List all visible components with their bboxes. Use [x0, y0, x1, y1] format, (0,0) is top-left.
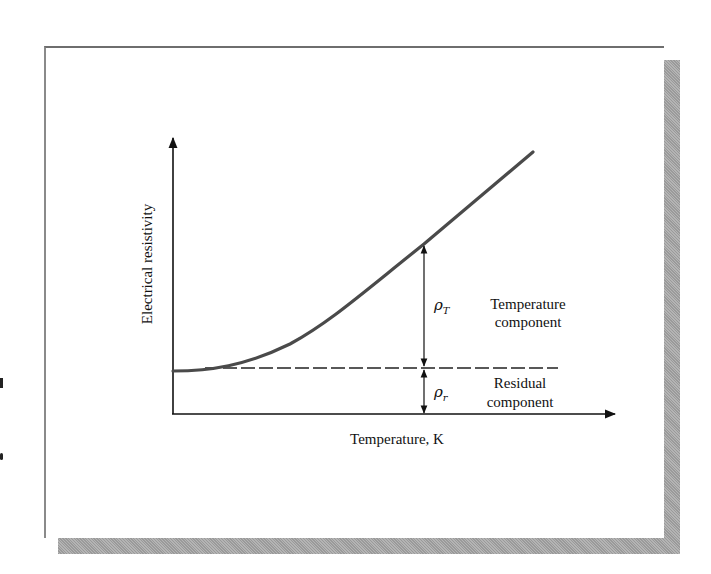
temperature-component-label-2: component — [495, 314, 562, 330]
resistivity-curve — [173, 152, 533, 371]
rho-r-symbol: ρr — [433, 383, 449, 403]
residual-component-label-2: component — [487, 394, 554, 410]
residual-component-label-1: Residual — [494, 375, 547, 391]
rho-t-symbol: ρT — [433, 296, 451, 316]
resistivity-diagram: Electrical resistivity Temperature, K ρT… — [0, 0, 711, 574]
y-axis-label: Electrical resistivity — [139, 203, 155, 324]
temperature-component-label-1: Temperature — [490, 296, 566, 312]
x-axis-label: Temperature, K — [350, 431, 444, 447]
